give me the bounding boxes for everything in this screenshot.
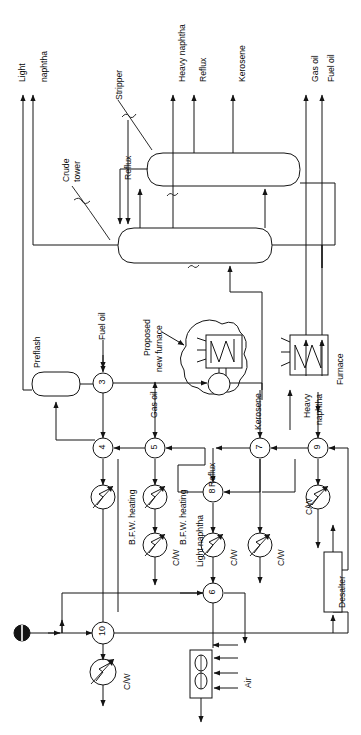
exchanger-number-5[interactable]: 5	[149, 444, 159, 449]
exchanger-number-6[interactable]: 6	[207, 589, 217, 594]
preflash-drum-shape	[32, 372, 80, 396]
label-light-naphtha-mid: Light naphtha	[196, 515, 205, 567]
proposed-new-furnace-cloud	[180, 320, 247, 395]
label-cw-7: C/W	[277, 549, 286, 566]
label-kerosene-top: Kerosene	[238, 45, 247, 82]
label-reflux-top: Reflux	[199, 58, 208, 82]
label-cw-10: C/W	[123, 673, 132, 690]
exchanger-number-9[interactable]: 9	[312, 444, 322, 449]
air-cooler-shape	[190, 650, 212, 698]
exchanger-number-7[interactable]: 7	[254, 444, 264, 449]
exchanger-number-8[interactable]: 8	[207, 488, 217, 493]
label-bfw-heating-2: B.F.W. heating	[179, 490, 188, 545]
label-heavy-naphtha-line2: naphtha	[315, 394, 325, 425]
label-heavy-naphtha-line1: Heavy	[303, 394, 313, 418]
label-cw-5b: C/W	[172, 549, 181, 566]
label-fuel-oil-feed: Fuel oil	[98, 312, 107, 340]
label-stripper: Stripper	[115, 70, 124, 100]
exchanger-number-10[interactable]: 10	[97, 626, 107, 636]
label-proposed-line2: new furnace	[155, 325, 164, 372]
exchanger-number-4[interactable]: 4	[97, 444, 107, 449]
label-crude-tower-line1: Crude	[62, 159, 71, 182]
label-air: Air	[244, 677, 253, 688]
crude-feed-source-symbol	[14, 625, 30, 641]
stripper-vessel-shape	[147, 153, 300, 186]
label-bfw-heating-1: B.F.W. heating	[128, 490, 137, 545]
label-gas-oil-top: Gas oil	[311, 55, 320, 82]
label-furnace: Furnace	[336, 353, 345, 385]
label-kerosene-feed: Kerosene	[254, 393, 263, 430]
label-light-naphtha-line1: Light	[18, 63, 27, 82]
label-proposed-line1: Proposed	[143, 319, 152, 356]
label-heavy-naphtha-top: Heavy naphtha	[178, 24, 187, 82]
exchanger-number-3[interactable]: 3	[97, 379, 107, 384]
process-flow-diagram: Light naphtha Heavy naphtha Reflux Keros…	[0, 0, 361, 735]
label-crude-tower-line2: tower	[73, 161, 82, 182]
label-reflux-side: Reflux	[124, 156, 133, 180]
label-cw-9: C/W	[305, 498, 314, 515]
label-preflash: Preflash	[33, 336, 42, 368]
label-fuel-oil-top: Fuel oil	[327, 54, 336, 82]
label-reflux-mid: Reflux	[208, 463, 217, 487]
label-light-naphtha-line2: naphtha	[40, 51, 49, 82]
label-desalter: Desalter	[338, 576, 347, 608]
label-cw-8: C/W	[230, 549, 239, 566]
label-gas-oil-feed: Gas oil	[150, 391, 159, 418]
diagram-vector-layer	[0, 0, 361, 735]
crude-tower-vessel-shape	[118, 228, 272, 263]
